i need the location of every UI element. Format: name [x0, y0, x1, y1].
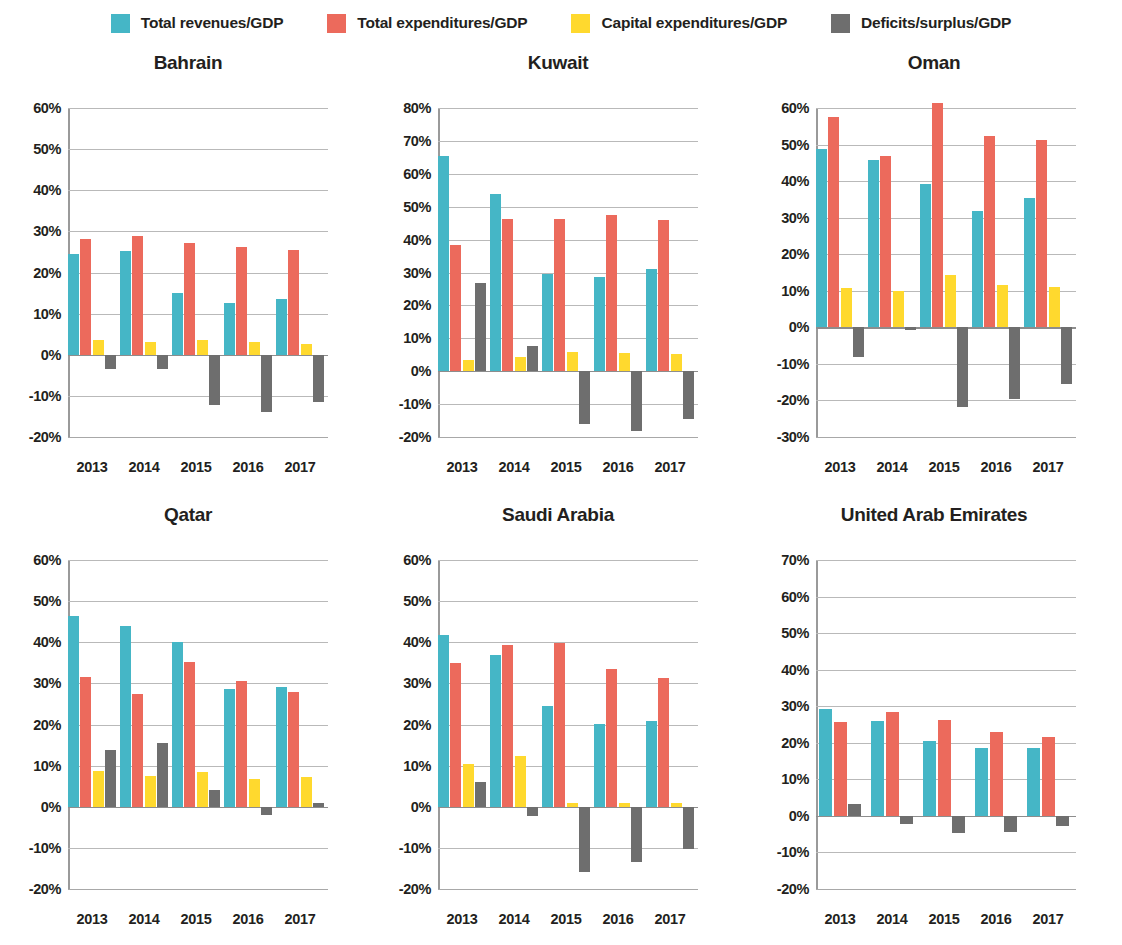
bar[interactable] [658, 220, 669, 371]
bar[interactable] [450, 663, 461, 807]
bar[interactable] [893, 291, 904, 328]
bar[interactable] [920, 184, 931, 327]
bar[interactable] [819, 709, 832, 816]
bar[interactable] [224, 689, 235, 807]
bar[interactable] [932, 103, 943, 328]
bar[interactable] [828, 117, 839, 328]
bar[interactable] [475, 283, 486, 371]
bar[interactable] [594, 277, 605, 371]
legend-item-capital[interactable]: Capital expenditures/GDP [571, 14, 787, 33]
bar[interactable] [984, 136, 995, 328]
bar[interactable] [957, 327, 968, 407]
bar[interactable] [184, 662, 195, 807]
bar[interactable] [197, 340, 208, 354]
bar[interactable] [184, 243, 195, 355]
bar[interactable] [1056, 816, 1069, 826]
bar[interactable] [132, 236, 143, 355]
bar[interactable] [683, 807, 694, 849]
bar[interactable] [841, 288, 852, 327]
bar[interactable] [224, 303, 235, 355]
bar[interactable] [105, 750, 116, 806]
bar[interactable] [249, 342, 260, 354]
bar[interactable] [172, 293, 183, 355]
bar[interactable] [490, 655, 501, 807]
bar[interactable] [972, 211, 983, 327]
bar[interactable] [157, 743, 168, 807]
bar[interactable] [463, 360, 474, 372]
bar[interactable] [1004, 816, 1017, 832]
bar[interactable] [619, 803, 630, 806]
bar[interactable] [132, 694, 143, 806]
bar[interactable] [209, 355, 220, 405]
bar[interactable] [450, 245, 461, 372]
bar[interactable] [567, 352, 578, 371]
bar[interactable] [619, 353, 630, 371]
bar[interactable] [197, 772, 208, 807]
bar[interactable] [631, 371, 642, 431]
bar[interactable] [975, 748, 988, 816]
bar[interactable] [1027, 748, 1040, 816]
bar[interactable] [68, 616, 79, 807]
bar[interactable] [1036, 140, 1047, 328]
bar[interactable] [606, 215, 617, 371]
bar[interactable] [249, 779, 260, 807]
bar[interactable] [671, 803, 682, 806]
bar[interactable] [502, 219, 513, 371]
bar[interactable] [848, 804, 861, 816]
bar[interactable] [997, 285, 1008, 327]
bar[interactable] [990, 732, 1003, 816]
bar[interactable] [276, 299, 287, 355]
bar[interactable] [145, 776, 156, 806]
bar[interactable] [105, 355, 116, 369]
bar[interactable] [276, 687, 287, 806]
bar[interactable] [542, 706, 553, 806]
bar[interactable] [80, 239, 91, 355]
bar[interactable] [579, 371, 590, 424]
bar[interactable] [490, 194, 501, 372]
bar[interactable] [1049, 287, 1060, 327]
bar[interactable] [502, 645, 513, 807]
bar[interactable] [880, 156, 891, 328]
legend-item-deficit[interactable]: Deficits/surplus/GDP [831, 14, 1011, 33]
bar[interactable] [1024, 198, 1035, 328]
bar[interactable] [816, 149, 827, 327]
bar[interactable] [236, 681, 247, 807]
bar[interactable] [683, 371, 694, 419]
bar[interactable] [172, 642, 183, 807]
bar[interactable] [900, 816, 913, 824]
bar[interactable] [261, 807, 272, 815]
bar[interactable] [952, 816, 965, 834]
bar[interactable] [515, 756, 526, 807]
bar[interactable] [438, 156, 449, 371]
bar[interactable] [886, 712, 899, 816]
bar[interactable] [606, 669, 617, 807]
legend-item-expenditures[interactable]: Total expenditures/GDP [327, 14, 527, 33]
bar[interactable] [671, 354, 682, 371]
bar[interactable] [554, 643, 565, 807]
bar[interactable] [93, 340, 104, 355]
legend-item-revenues[interactable]: Total revenues/GDP [111, 14, 284, 33]
bar[interactable] [527, 807, 538, 816]
bar[interactable] [646, 269, 657, 371]
bar[interactable] [261, 355, 272, 412]
bar[interactable] [463, 764, 474, 806]
bar[interactable] [905, 327, 916, 330]
bar[interactable] [938, 720, 951, 815]
bar[interactable] [288, 692, 299, 807]
bar[interactable] [1009, 327, 1020, 398]
bar[interactable] [871, 721, 884, 816]
bar[interactable] [209, 790, 220, 806]
bar[interactable] [157, 355, 168, 369]
bar[interactable] [1042, 737, 1055, 816]
bar[interactable] [945, 275, 956, 327]
bar[interactable] [658, 678, 669, 807]
bar[interactable] [288, 250, 299, 354]
bar[interactable] [313, 803, 324, 807]
bar[interactable] [579, 807, 590, 872]
bar[interactable] [120, 251, 131, 355]
bar[interactable] [313, 355, 324, 402]
bar[interactable] [646, 721, 657, 807]
bar[interactable] [542, 274, 553, 371]
bar[interactable] [93, 771, 104, 806]
bar[interactable] [554, 219, 565, 371]
